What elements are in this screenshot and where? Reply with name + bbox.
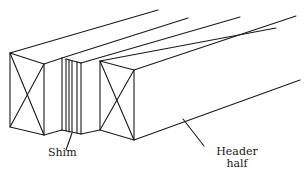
right-header-half [100,16,300,140]
shim-label: Shim [48,147,77,159]
header-half-leader-line [183,119,204,146]
header-half-label: Header half [214,146,260,170]
shim-label-text: Shim [48,146,77,159]
header-half-label-line2: half [214,158,260,170]
left-header-half [10,10,158,135]
diagram-canvas: Shim Header half [0,0,304,174]
